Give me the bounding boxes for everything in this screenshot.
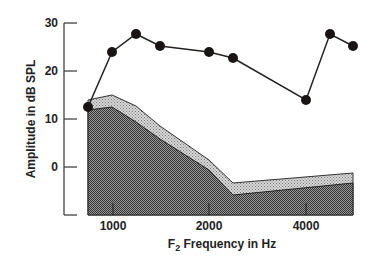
data-point	[348, 41, 358, 51]
y-axis-title: Amplitude in dB SPL	[24, 60, 38, 179]
measured-line	[88, 34, 353, 107]
data-point	[325, 29, 335, 39]
x-tick-label: 4000	[293, 219, 320, 233]
y-tick-label: 20	[45, 64, 59, 78]
data-point	[155, 41, 165, 51]
data-point	[107, 47, 117, 57]
y-tick-label: 10	[45, 112, 59, 126]
data-point	[301, 95, 311, 105]
y-tick-label: 0	[51, 160, 58, 174]
data-point	[204, 47, 214, 57]
x-tick-label: 2000	[196, 219, 223, 233]
x-axis-title: F2 Frequency in Hz	[168, 237, 276, 253]
lower-region-area	[88, 107, 353, 215]
x-tick-label: 1000	[100, 219, 127, 233]
data-point	[228, 53, 238, 63]
chart: 30 20 10 0 Amplitude in dB SPL 1000 2000…	[0, 0, 376, 260]
y-axis: 30 20 10 0 Amplitude in dB SPL	[24, 16, 77, 215]
data-point	[83, 102, 93, 112]
data-point	[131, 29, 141, 39]
y-tick-label: 30	[45, 16, 59, 30]
